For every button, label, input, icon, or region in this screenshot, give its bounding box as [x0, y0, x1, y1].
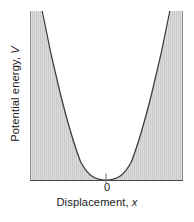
- x-axis-label-symbol: x: [132, 196, 138, 208]
- plot-area: [30, 11, 183, 180]
- x-axis-label-text: Displacement,: [56, 196, 131, 208]
- y-axis-label-container: Potential energy, V: [0, 0, 30, 188]
- x-axis-label: Displacement, x: [0, 196, 194, 208]
- y-axis-label: Potential energy, V: [9, 46, 21, 142]
- x-axis-tick-label-zero: 0: [99, 181, 115, 193]
- y-axis-label-symbol: V: [9, 46, 21, 54]
- shaded-forbidden-region: [30, 11, 183, 180]
- potential-energy-figure: Potential energy, V: [0, 0, 194, 222]
- y-axis-label-text: Potential energy,: [9, 54, 21, 142]
